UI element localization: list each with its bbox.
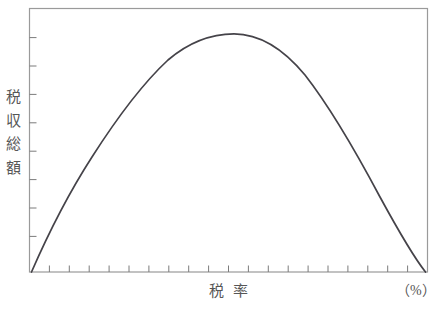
y-axis-label-char-tax: 税 [2,86,24,110]
plot-frame [30,9,428,273]
y-axis-label-char-revenue: 収 [2,110,24,134]
y-axis-label: 税収総額 税 収 総 額 [2,86,24,180]
y-axis-label-char-total: 総 [2,133,24,157]
x-axis-label-part2: 率 [233,283,248,299]
laffer-curve-figure: 税収総額 税 収 総 額 税率 （%） [0,0,443,312]
plot-area [0,0,443,312]
x-axis-label-part1: 税 [209,283,224,299]
x-axis-unit-label: （%） [396,282,442,300]
x-axis-label: 税率 [168,282,288,300]
y-axis-label-char-amount: 額 [2,157,24,181]
